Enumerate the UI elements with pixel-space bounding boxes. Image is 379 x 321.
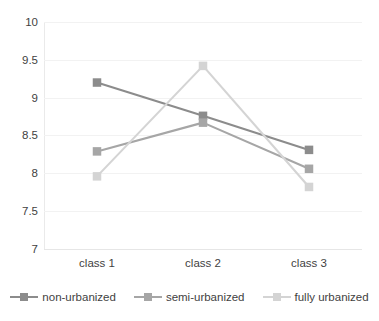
y-tick-label: 9.5 (6, 54, 38, 66)
y-tick-label: 8.5 (6, 129, 38, 141)
data-point-marker (305, 146, 314, 155)
y-tick-label: 9 (6, 92, 38, 104)
legend-item-semi-urbanized: semi-urbanized (134, 291, 245, 304)
series-layer (44, 22, 362, 249)
x-tick-label-class-3: class 3 (256, 256, 362, 274)
data-point-marker (93, 147, 102, 156)
data-point-marker (199, 118, 208, 127)
legend-label: semi-urbanized (166, 291, 245, 304)
legend-label: non-urbanized (42, 291, 116, 304)
legend-marker (144, 293, 152, 301)
legend-label: fully urbanized (295, 291, 369, 304)
legend-swatch-icon (263, 291, 291, 303)
legend-item-fully-urbanized: fully urbanized (263, 291, 369, 304)
legend-swatch-icon (134, 291, 162, 303)
data-point-marker (93, 172, 102, 181)
x-axis-line (44, 249, 362, 250)
chart-legend: non-urbanized semi-urbanized fully urban… (0, 286, 379, 308)
data-point-marker (199, 62, 208, 71)
y-tick-label: 8 (6, 167, 38, 179)
legend-marker (20, 293, 28, 301)
x-tick-label-class-2: class 2 (150, 256, 256, 274)
legend-item-non-urbanized: non-urbanized (10, 291, 116, 304)
x-axis-tick-labels: class 1 class 2 class 3 (44, 256, 362, 274)
data-point-marker (305, 183, 314, 192)
x-tick-label-class-1: class 1 (44, 256, 150, 274)
y-tick-label: 7 (6, 243, 38, 255)
series-line (97, 123, 309, 169)
data-point-marker (93, 78, 102, 87)
line-chart: 10 9.5 9 8.5 8 7.5 7 class 1 class 2 cla… (0, 0, 379, 321)
plot-area (44, 22, 362, 249)
y-tick-label: 7.5 (6, 205, 38, 217)
legend-marker (273, 293, 281, 301)
legend-swatch-icon (10, 291, 38, 303)
data-point-marker (305, 165, 314, 174)
y-tick-label: 10 (6, 16, 38, 28)
